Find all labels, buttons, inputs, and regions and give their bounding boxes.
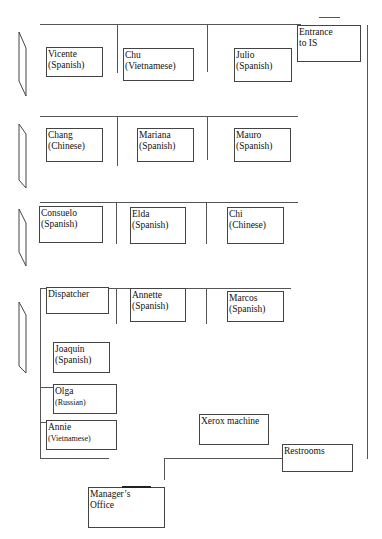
desk-chi: Chi (Chinese) bbox=[227, 207, 284, 244]
door-icon bbox=[19, 209, 26, 266]
desk-name: Chi bbox=[229, 209, 283, 220]
desk-annie: Annie (Vietnamese) bbox=[46, 420, 117, 450]
desk-language: (Spanish) bbox=[132, 220, 185, 231]
desk-joaquin: Joaquin (Spanish) bbox=[53, 342, 110, 373]
door-icon bbox=[19, 302, 26, 373]
desk-name: Annette bbox=[132, 290, 185, 301]
row1-wall bbox=[40, 24, 301, 25]
desk-mauro: Mauro (Spanish) bbox=[234, 128, 291, 162]
managers-office: Manager’s Office bbox=[88, 487, 165, 528]
desk-name: Olga bbox=[55, 386, 116, 397]
restrooms-label: Restrooms bbox=[284, 446, 352, 457]
manager-door-marker bbox=[122, 486, 151, 488]
xerox-label: Xerox machine bbox=[201, 416, 268, 427]
desk-name: Chu bbox=[125, 50, 193, 61]
row3-divider-1 bbox=[116, 202, 117, 244]
desk-language: (Spanish) bbox=[236, 61, 291, 72]
desk-language: (Spanish) bbox=[236, 141, 290, 152]
desk-language: (Chinese) bbox=[48, 141, 102, 152]
desk-vicente: Vicente (Spanish) bbox=[46, 47, 103, 77]
desk-mariana: Mariana (Spanish) bbox=[137, 128, 194, 162]
manager-line1: Manager’s bbox=[90, 489, 164, 500]
desk-language: (Vietnamese) bbox=[48, 433, 116, 444]
entrance-line1: Entrance bbox=[299, 27, 360, 38]
desk-annette: Annette (Spanish) bbox=[130, 288, 186, 322]
row2-wall bbox=[40, 116, 298, 117]
desk-name: Consuelo bbox=[41, 208, 102, 219]
manager-wall bbox=[164, 458, 165, 480]
desk-name: Mauro bbox=[236, 130, 290, 141]
desk-elda: Elda (Spanish) bbox=[130, 207, 186, 244]
right-wall bbox=[367, 25, 368, 459]
xerox-machine: Xerox machine bbox=[199, 414, 269, 445]
door-icon bbox=[19, 124, 26, 188]
desk-name: Vicente bbox=[48, 49, 102, 60]
desk-language: (Spanish) bbox=[139, 141, 193, 152]
desk-language: (Spanish) bbox=[229, 304, 283, 315]
desk-chang: Chang (Chinese) bbox=[46, 128, 103, 162]
desk-consuelo: Consuelo (Spanish) bbox=[39, 206, 103, 243]
desk-language: (Spanish) bbox=[48, 60, 102, 71]
desk-olga: Olga (Russian) bbox=[53, 384, 117, 414]
desk-marcos: Marcos (Spanish) bbox=[227, 291, 284, 322]
desk-name: Dispatcher bbox=[48, 289, 108, 300]
door-icon bbox=[19, 32, 26, 96]
entrance-marker bbox=[319, 17, 340, 18]
desk-language: (Spanish) bbox=[132, 301, 185, 312]
row4-divider-1 bbox=[116, 288, 117, 324]
row3-wall bbox=[40, 202, 298, 203]
desk-language: (Chinese) bbox=[229, 220, 283, 231]
restrooms: Restrooms bbox=[282, 444, 353, 472]
left-wall bbox=[40, 288, 41, 459]
desk-name: Marcos bbox=[229, 293, 283, 304]
desk-language: (Spanish) bbox=[41, 219, 102, 230]
desk-name: Mariana bbox=[139, 130, 193, 141]
olga-connector bbox=[40, 387, 53, 388]
desk-name: Joaquin bbox=[55, 344, 109, 355]
row2-divider-1 bbox=[117, 116, 118, 166]
desk-name: Annie bbox=[48, 422, 116, 433]
row4-divider-2 bbox=[206, 288, 207, 324]
entrance-to-is: Entrance to IS bbox=[297, 25, 361, 62]
restroom-wall bbox=[164, 458, 282, 459]
bottom-left-wall bbox=[40, 458, 109, 459]
manager-line2: Office bbox=[90, 500, 164, 511]
desk-language: (Spanish) bbox=[55, 355, 109, 366]
desk-language: (Vietnamese) bbox=[125, 61, 193, 72]
desk-name: Elda bbox=[132, 209, 185, 220]
desk-julio: Julio (Spanish) bbox=[234, 48, 292, 82]
entrance-line2: to IS bbox=[299, 38, 360, 49]
desk-language: (Russian) bbox=[55, 397, 116, 408]
row1-divider-1 bbox=[117, 24, 118, 73]
desk-chu: Chu (Vietnamese) bbox=[123, 48, 194, 81]
row3-divider-2 bbox=[206, 202, 207, 244]
desk-name: Chang bbox=[48, 130, 102, 141]
desk-name: Julio bbox=[236, 50, 291, 61]
desk-dispatcher: Dispatcher bbox=[46, 287, 109, 314]
row1-divider-2 bbox=[207, 24, 208, 72]
row2-divider-2 bbox=[207, 116, 208, 160]
